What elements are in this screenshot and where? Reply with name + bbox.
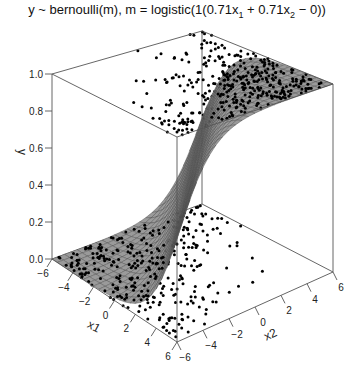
- svg-text:−6: −6: [37, 268, 49, 279]
- svg-text:4: 4: [144, 337, 150, 348]
- svg-text:0.8: 0.8: [29, 106, 43, 117]
- svg-text:2: 2: [286, 305, 292, 316]
- svg-text:0.6: 0.6: [29, 143, 43, 154]
- svg-text:0.0: 0.0: [29, 254, 43, 265]
- svg-text:4: 4: [312, 294, 318, 305]
- svg-text:−4: −4: [205, 340, 217, 351]
- svg-text:2: 2: [124, 323, 130, 334]
- svg-text:6: 6: [165, 351, 171, 362]
- svg-text:−2: −2: [79, 296, 91, 307]
- svg-text:−4: −4: [58, 282, 70, 293]
- svg-text:x1: x1: [85, 317, 103, 335]
- surface-plot: 0.00.20.40.60.81.0y−6−4−20246x1−6−4−2024…: [0, 0, 354, 375]
- svg-text:0.2: 0.2: [29, 217, 43, 228]
- svg-text:−2: −2: [231, 329, 243, 340]
- svg-text:0.4: 0.4: [29, 180, 43, 191]
- svg-text:0: 0: [260, 317, 266, 328]
- svg-text:0: 0: [103, 310, 109, 321]
- svg-text:1.0: 1.0: [29, 69, 43, 80]
- svg-text:y: y: [15, 149, 29, 155]
- svg-text:6: 6: [338, 282, 344, 293]
- svg-text:−6: −6: [179, 352, 191, 363]
